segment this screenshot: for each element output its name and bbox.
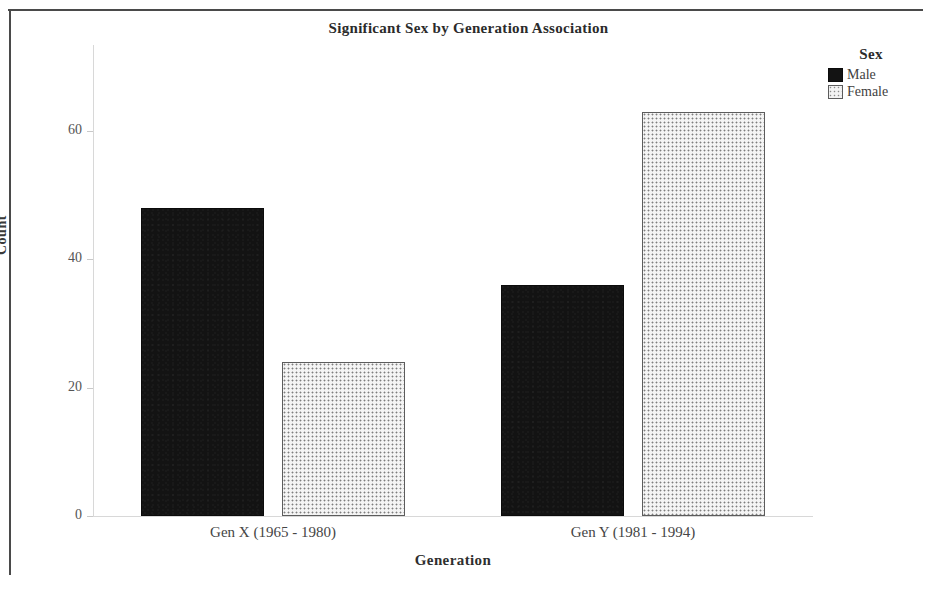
legend-item-female[interactable]: Female (828, 84, 932, 100)
x-category-label: Gen X (1965 - 1980) (93, 524, 453, 541)
y-tick-label: 0 (38, 508, 82, 522)
legend-item-male[interactable]: Male (828, 67, 932, 83)
x-axis-title: Generation (93, 552, 813, 569)
x-axis-line (93, 516, 813, 517)
bar-male-group-1[interactable] (141, 208, 264, 516)
y-tick-label: 40 (38, 251, 82, 265)
legend: Sex Male Female (828, 46, 932, 101)
y-tick-label: 60 (38, 123, 82, 137)
y-axis-title: Count (0, 215, 10, 255)
chart-title: Significant Sex by Generation Associatio… (0, 20, 937, 37)
black-solid-swatch-icon (828, 68, 843, 82)
y-tick-label: 20 (38, 380, 82, 394)
bar-male-group-2[interactable] (501, 285, 624, 516)
y-tick-mark (87, 516, 93, 517)
legend-title: Sex (828, 46, 914, 63)
chart-figure: Significant Sex by Generation Associatio… (0, 0, 937, 589)
x-category-label: Gen Y (1981 - 1994) (453, 524, 813, 541)
page-frame-left-rule (9, 9, 11, 575)
light-dotted-swatch-icon (828, 85, 843, 99)
page-frame-top-rule (8, 9, 923, 11)
bar-female-group-2[interactable] (642, 112, 765, 516)
plot-area (93, 45, 813, 516)
bar-female-group-1[interactable] (282, 362, 405, 516)
legend-label-male: Male (847, 68, 876, 82)
legend-label-female: Female (847, 85, 888, 99)
